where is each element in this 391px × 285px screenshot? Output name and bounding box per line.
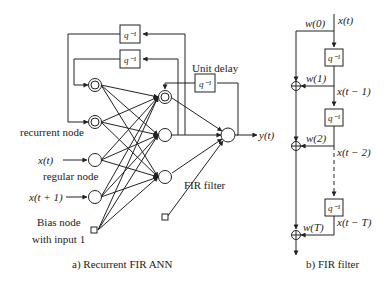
delay-label: q⁻¹	[328, 113, 341, 123]
input-hidden-connections	[98, 85, 158, 230]
recurrent-node-label: recurrent node	[20, 126, 84, 138]
delay-label: q⁻¹	[199, 79, 212, 89]
delay-box-2: q⁻¹	[120, 50, 140, 68]
recurrent-fir-ann: q⁻¹ q⁻¹ q⁻¹ Unit delay	[20, 25, 275, 271]
weight-w0: w(0)	[305, 17, 326, 30]
recurrent-node-1	[89, 79, 102, 92]
delay-label: q⁻¹	[124, 30, 137, 40]
unit-delay-box: q⁻¹	[195, 74, 215, 92]
bias-node-label-1: Bias node	[37, 216, 81, 228]
delay-box-1: q⁻¹	[120, 25, 140, 43]
fir-filter-detail: q⁻¹ q⁻¹ q⁻¹ x(t) x(t − 1) x(t − 2) x(t −…	[292, 14, 372, 271]
adder-1	[292, 82, 301, 91]
left-caption: a) Recurrent FIR ANN	[72, 258, 173, 271]
unit-delay-label: Unit delay	[192, 62, 239, 74]
delay-label: q⁻¹	[328, 203, 341, 213]
regular-node-1	[89, 154, 102, 167]
fir-delay-box-1: q⁻¹	[325, 49, 343, 66]
fir-delay-box-3: q⁻¹	[325, 199, 343, 216]
recurrent-fir-ann-diagram: q⁻¹ q⁻¹ q⁻¹ Unit delay	[0, 0, 391, 285]
weight-w1: w(1)	[306, 72, 327, 85]
right-caption: b) FIR filter	[306, 258, 359, 271]
fir-filter-label: FIR filter	[184, 179, 226, 191]
adder-2	[292, 142, 301, 151]
output-node	[221, 128, 235, 142]
bias-node-label-2: with input 1	[32, 233, 85, 245]
weight-w2: w(2)	[306, 132, 327, 145]
fir-delay-box-2: q⁻¹	[325, 109, 343, 126]
signal-x-t-2: x(t − 2)	[336, 146, 371, 159]
input-x-t1-label: x(t + 1)	[28, 191, 63, 204]
regular-node-2	[89, 191, 102, 204]
hidden-node-2	[159, 129, 172, 142]
weight-wT: w(T)	[303, 221, 324, 234]
delay-label: q⁻¹	[124, 55, 137, 65]
signal-x-t-1: x(t − 1)	[336, 85, 371, 98]
input-layer	[89, 79, 102, 234]
hidden-output-connections	[167, 98, 223, 217]
input-x-t-label: x(t)	[37, 154, 54, 167]
signal-x-t-T: x(t − T)	[336, 216, 372, 229]
delay-label: q⁻¹	[328, 53, 341, 63]
bias-node	[91, 227, 97, 233]
regular-node-label: regular node	[43, 170, 98, 182]
hidden-node-3	[159, 171, 172, 184]
hidden-layer	[159, 91, 172, 221]
output-label: y(t)	[258, 129, 275, 142]
adder-3	[292, 231, 301, 240]
hidden-bias-node	[162, 214, 168, 220]
recurrent-node-2	[89, 116, 102, 129]
signal-x-t: x(t)	[337, 14, 354, 27]
hidden-recurrent-node	[159, 91, 172, 104]
